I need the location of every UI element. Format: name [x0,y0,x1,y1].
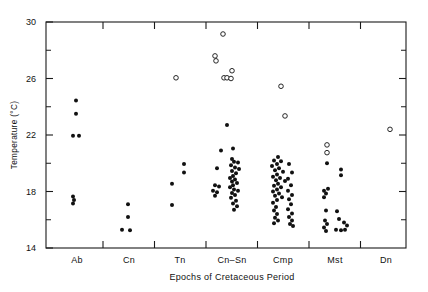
data-point-filled [277,192,281,196]
data-point-filled [342,221,346,225]
y-tick-label: 26 [26,74,36,84]
data-point-filled [237,167,241,171]
data-point-filled [213,183,217,187]
data-point-filled [71,202,75,206]
data-point-filled [271,190,275,194]
data-point-open [279,84,284,89]
data-point-filled [345,223,349,227]
x-tick-label: Mst [327,255,343,265]
y-tick-label: 18 [26,187,36,197]
data-point-open [388,127,393,132]
data-point-filled [324,209,328,213]
data-point-filled [323,218,327,222]
data-point-filled [273,216,277,220]
data-point-filled [182,162,186,166]
chart-canvas: 3026221814 AbCnTnCn–SnCmpMstDn Temperatu… [0,0,428,292]
data-point-filled [72,198,76,202]
data-point-filled [286,177,290,181]
data-point-filled [275,187,279,191]
data-point-filled [232,187,236,191]
data-point-filled [236,189,240,193]
data-point-filled [287,197,291,201]
data-point-filled [322,226,326,230]
data-point-filled [272,209,276,213]
data-point-filled [228,176,232,180]
data-point-filled [278,176,282,180]
data-point-open [214,59,219,64]
data-point-filled [230,180,234,184]
data-point-filled [289,183,293,187]
data-point-filled [279,185,283,189]
data-point-filled [276,182,280,186]
data-point-filled [217,185,221,189]
data-point-open [283,114,288,119]
data-point-filled [286,189,290,193]
data-point-filled [281,170,285,174]
data-point-filled [275,162,279,166]
data-point-filled [229,196,233,200]
x-tick-label: Cn [123,255,135,265]
data-point-filled [334,228,338,232]
x-axis-title: Epochs of Cretaceous Period [169,272,294,282]
data-point-filled [273,168,277,172]
data-point-filled [120,228,124,232]
x-tick-label: Tn [174,255,185,265]
data-point-filled [272,184,276,188]
data-point-filled [339,173,343,177]
data-point-filled [275,198,279,202]
data-point-filled [287,162,291,166]
data-point-open [230,68,235,73]
data-point-filled [326,187,330,191]
data-point-filled [325,222,329,226]
y-tick-label: 14 [26,243,36,253]
data-point-open [229,76,234,81]
data-point-filled [232,208,236,212]
data-point-filled [235,204,239,208]
data-point-filled [219,149,223,153]
data-point-filled [230,169,234,173]
data-point-filled [324,192,328,196]
data-point-open [213,54,218,59]
data-point-filled [126,202,130,206]
data-point-filled [274,205,278,209]
data-point-filled [231,146,235,150]
data-point-filled [232,160,236,164]
data-point-open [325,150,330,155]
data-point-filled [74,112,78,116]
data-point-filled [277,166,281,170]
data-point-filled [273,194,277,198]
data-point-filled [287,215,291,219]
data-point-filled [215,166,219,170]
data-point-filled [272,158,276,162]
data-point-filled [233,165,237,169]
data-point-filled [324,229,328,233]
data-point-filled [274,178,278,182]
data-point-filled [182,170,186,174]
data-point-filled [126,215,130,219]
data-point-filled [290,218,294,222]
data-point-filled [74,98,78,102]
data-point-open [325,143,330,148]
data-point-filled [231,202,235,206]
data-point-open [221,32,226,37]
data-point-filled [77,134,81,138]
data-point-filled [234,171,238,175]
data-point-filled [291,224,295,228]
y-tick-label: 30 [26,17,36,27]
data-point-filled [275,173,279,177]
data-point-filled [335,209,339,213]
data-point-filled [213,194,217,198]
data-point-filled [275,212,279,216]
data-point-filled [233,193,237,197]
data-point-filled [170,182,174,186]
data-point-filled [337,217,341,221]
data-point-filled [290,193,294,197]
data-point-filled [215,190,219,194]
data-point-open [174,75,179,80]
data-point-filled [289,202,293,206]
data-point-filled [128,228,132,232]
data-point-filled [272,221,276,225]
x-tick-label: Dn [380,255,392,265]
data-point-filled [339,168,343,172]
data-point-filled [271,201,275,205]
